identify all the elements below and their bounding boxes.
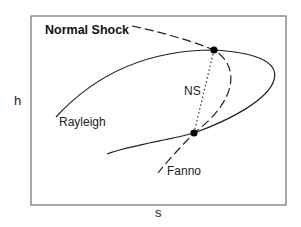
downstream-state-point — [190, 129, 197, 136]
rayleigh-label: Rayleigh — [59, 115, 106, 129]
ns-label: NS — [184, 84, 201, 98]
plot-frame — [31, 16, 286, 205]
fanno-label: Fanno — [167, 164, 201, 178]
y-axis-label: h — [14, 93, 21, 108]
diagram-title: Normal Shock — [45, 23, 129, 37]
upstream-state-point — [210, 46, 217, 53]
rayleigh-line — [56, 50, 275, 154]
x-axis-label: s — [155, 205, 162, 220]
